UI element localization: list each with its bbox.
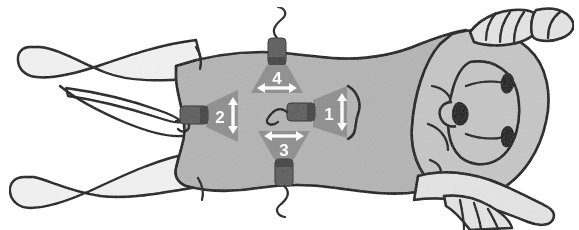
ear-right [531,8,573,41]
marker-2-probe-tip [200,106,208,124]
marker-4-cable [274,7,285,38]
marker-3-label: 3 [279,141,288,160]
ear-left [470,10,540,46]
marker-2-label: 2 [215,108,224,127]
ultrasound-probe-figure: 4 3 [0,0,579,230]
marker-4-label: 4 [272,69,282,88]
marker-1-label: 1 [324,105,333,124]
tail [66,88,182,123]
figure-canvas: 4 3 [0,0,579,230]
marker-4-probe-tip [268,57,286,65]
marker-1-probe-tip [307,103,315,121]
marker-3-cable [277,186,288,217]
marker-4-group[interactable]: 4 [251,7,303,93]
hind-leg-lower [10,152,204,208]
marker-3-probe-tip [275,159,293,167]
